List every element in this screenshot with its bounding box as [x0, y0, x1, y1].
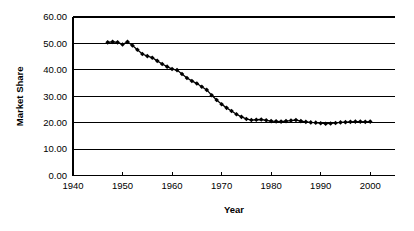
x-tick-label: 1960 [162, 180, 183, 191]
chart-canvas: 1940195019601970198019902000 0.0010.0020… [0, 0, 414, 231]
x-tick-label: 1990 [310, 180, 331, 191]
x-tick-label: 1980 [261, 180, 282, 191]
y-tick-label: 10.00 [43, 143, 67, 154]
x-tick-label: 1940 [62, 180, 83, 191]
y-tick-label: 40.00 [43, 64, 67, 75]
y-tick-label: 20.00 [43, 117, 67, 128]
y-axis-title: Market Share [14, 66, 25, 126]
chart-background [0, 0, 414, 231]
x-tick-label: 2000 [360, 180, 381, 191]
x-tick-label: 1950 [112, 180, 133, 191]
chart-figure: 1940195019601970198019902000 0.0010.0020… [0, 0, 414, 231]
y-tick-label: 30.00 [43, 91, 67, 102]
x-axis-title: Year [224, 204, 244, 215]
y-tick-label: 0.00 [49, 170, 68, 181]
x-tick-label: 1970 [211, 180, 232, 191]
y-tick-label: 50.00 [43, 38, 67, 49]
y-tick-label: 60.00 [43, 11, 67, 22]
